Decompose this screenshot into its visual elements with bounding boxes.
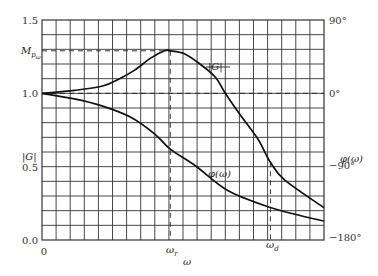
x-tick-0: 0	[41, 246, 47, 257]
y-left-tick-label: 0.0	[22, 235, 38, 246]
mp-label: Mpω	[20, 45, 41, 60]
y-left-tick-label: 0.5	[22, 162, 38, 173]
x-tick-omega-r: ωr	[166, 244, 178, 258]
y-axis-label-right: φ(ω)	[340, 153, 363, 164]
series-label-phase: φ(ω)	[208, 168, 231, 179]
x-axis-label: ω	[183, 256, 191, 267]
bode-magnitude-phase-chart: 0.00.51.01.590°0°−90°−180° |G| φ(ω) ω Mp…	[0, 0, 378, 276]
series-label-magnitude: |G|	[208, 61, 223, 73]
x-tick-omega-d-sub: d	[274, 245, 279, 253]
y-right-tick-label: 0°	[329, 88, 340, 99]
x-tick-omega-r-sub: r	[174, 250, 178, 258]
x-tick-omega-r-main: ω	[166, 244, 174, 255]
y-left-tick-label: 1.0	[22, 88, 38, 99]
x-tick-omega-d: ωd	[266, 239, 279, 253]
y-left-tick-label: 1.5	[22, 15, 38, 26]
mp-label-subsub: ω	[36, 53, 41, 60]
y-right-tick-label: 90°	[329, 15, 347, 26]
y-axis-label-left: |G|	[22, 151, 37, 163]
mp-label-main: M	[20, 45, 32, 56]
x-tick-omega-d-main: ω	[266, 239, 274, 250]
y-right-tick-label: −180°	[329, 232, 361, 243]
